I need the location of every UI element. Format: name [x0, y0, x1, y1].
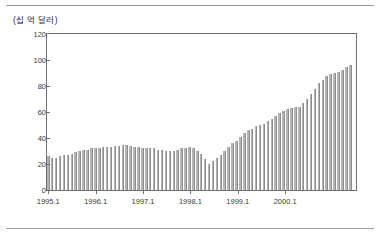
bar: [196, 151, 199, 190]
bar: [169, 151, 172, 190]
bar: [282, 111, 285, 190]
y-tick-label: 100: [20, 56, 46, 65]
y-tick-mark: [46, 86, 50, 87]
bar: [337, 72, 340, 190]
bar: [290, 108, 293, 190]
x-tick-label: 1997.1: [132, 197, 155, 206]
bar: [153, 148, 156, 190]
x-tick-mark: [238, 191, 239, 194]
bar: [231, 143, 234, 190]
bar: [125, 145, 128, 191]
bar: [90, 148, 93, 190]
bar: [82, 150, 85, 190]
bar: [286, 109, 289, 190]
bar: [306, 99, 309, 190]
bar: [74, 152, 77, 190]
x-tick-label: 1996.1: [84, 197, 107, 206]
x-tick-label: 1995.1: [37, 197, 60, 206]
y-tick-mark: [46, 138, 50, 139]
bar: [102, 147, 105, 190]
bar: [294, 107, 297, 190]
bar: [47, 156, 50, 190]
bar: [227, 147, 230, 190]
bar: [325, 76, 328, 190]
bar: [314, 89, 317, 190]
bar: [173, 151, 176, 190]
bar: [239, 137, 242, 190]
bar: [247, 130, 250, 190]
bar: [141, 148, 144, 190]
bar: [271, 119, 274, 191]
bar: [71, 154, 74, 190]
bar: [208, 164, 211, 190]
x-tick-mark: [48, 191, 49, 194]
x-tick-mark: [143, 191, 144, 194]
y-tick-label: 0: [20, 186, 46, 195]
bar: [94, 148, 97, 190]
bar: [55, 158, 58, 191]
bar: [259, 125, 262, 190]
bar: [106, 147, 109, 190]
bar: [223, 151, 226, 190]
y-tick-mark: [46, 112, 50, 113]
bar: [349, 65, 352, 190]
bar: [157, 150, 160, 190]
bar: [78, 151, 81, 190]
bar: [67, 155, 70, 190]
chart-figure: (십 억 달러) 020406080100120 1995.11996.1199…: [0, 0, 380, 237]
bar: [302, 103, 305, 190]
bar: [51, 158, 54, 191]
bar: [129, 146, 132, 190]
bar: [255, 126, 258, 190]
bar: [298, 107, 301, 190]
bar: [165, 151, 168, 190]
bar: [251, 129, 254, 190]
bar: [188, 147, 191, 190]
bar: [98, 148, 101, 190]
x-tick-label: 1998.1: [179, 197, 202, 206]
bar-series: [47, 34, 356, 190]
bar: [263, 124, 266, 190]
bar: [212, 161, 215, 190]
bar: [200, 154, 203, 190]
bar: [114, 146, 117, 190]
x-tick-mark: [190, 191, 191, 194]
bar: [145, 148, 148, 190]
y-tick-label: 80: [20, 82, 46, 91]
y-tick-label: 60: [20, 108, 46, 117]
plot-area: 020406080100120 1995.11996.11997.11998.1…: [0, 0, 380, 237]
bar: [318, 83, 321, 190]
y-tick-label: 20: [20, 160, 46, 169]
x-tick-mark: [96, 191, 97, 194]
bar: [322, 80, 325, 191]
bar: [329, 74, 332, 190]
bar: [184, 148, 187, 190]
bar: [192, 148, 195, 190]
bar: [345, 67, 348, 191]
y-tick-mark: [46, 164, 50, 165]
bar: [122, 145, 125, 191]
bar: [133, 147, 136, 190]
x-tick-mark: [285, 191, 286, 194]
bar: [161, 150, 164, 190]
bar: [59, 156, 62, 190]
x-tick-label: 2000.1: [274, 197, 297, 206]
bar: [149, 148, 152, 190]
x-tick-label: 1999.1: [226, 197, 249, 206]
bar: [137, 147, 140, 190]
bar: [86, 150, 89, 190]
bar: [118, 146, 121, 190]
y-tick-mark: [46, 60, 50, 61]
bar: [216, 158, 219, 191]
y-tick-label: 40: [20, 134, 46, 143]
bar: [220, 155, 223, 190]
bar: [267, 121, 270, 190]
bar: [235, 141, 238, 190]
bar: [204, 159, 207, 190]
bar: [333, 73, 336, 190]
bar: [110, 147, 113, 190]
bar: [63, 155, 66, 190]
bar: [176, 150, 179, 190]
bar: [274, 116, 277, 190]
bar: [341, 70, 344, 190]
